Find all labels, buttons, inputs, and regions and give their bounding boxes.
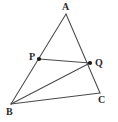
segment-bq [11,63,90,104]
segment-pq [39,59,90,63]
segment-bc [11,93,100,104]
point-label-a: A [62,2,69,12]
point-marker-q [88,61,92,65]
triangle-edges [11,14,100,104]
inner-segments [11,59,90,104]
point-label-c: C [98,95,105,105]
segment-ac [66,14,100,93]
point-label-p: P [29,52,35,62]
point-label-q: Q [95,58,103,68]
point-label-b: B [6,107,13,117]
geometry-figure: A P Q B C [0,0,118,122]
point-marker-p [37,57,41,61]
